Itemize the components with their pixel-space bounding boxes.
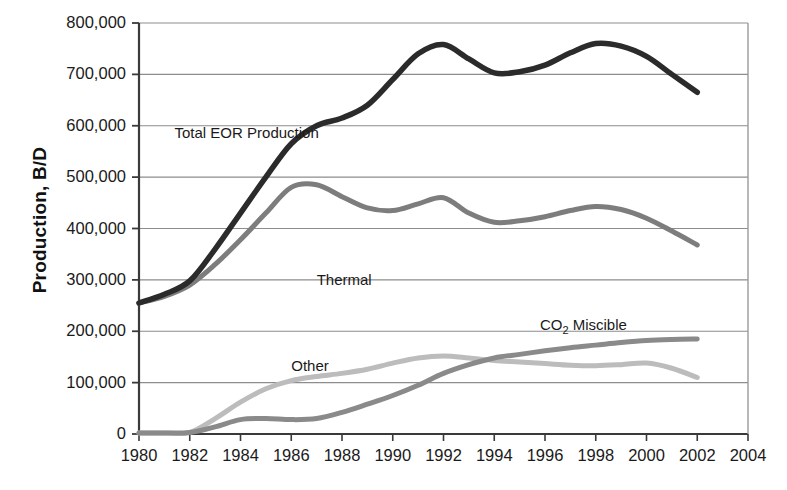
series-label-text: CO	[540, 316, 563, 333]
series-line-co2-miscible	[139, 339, 697, 433]
x-axis-ticks	[139, 434, 748, 441]
x-tick-label: 2000	[628, 446, 665, 465]
y-tick-label-text: 600,000	[66, 116, 126, 135]
x-tick-label: 1982	[171, 446, 208, 465]
series-label-text-2: Miscible	[569, 316, 627, 333]
y-tick-label-text: 500,000	[66, 167, 126, 186]
x-tick-label: 1980	[121, 446, 158, 465]
x-tick-label: 1992	[425, 446, 462, 465]
data-series	[139, 43, 697, 433]
chart-container: Production, B/D 0100,000200,000300,00040…	[0, 0, 787, 490]
y-tick-label-text: 800,000	[66, 13, 126, 32]
x-tick-label: 1990	[374, 446, 411, 465]
y-tick-label-text: 300,000	[66, 270, 126, 289]
x-tick-label: 1998	[577, 446, 614, 465]
x-tick-label: 1994	[476, 446, 513, 465]
series-line-total-eor-production	[139, 43, 697, 303]
y-tick-label-text: 100,000	[66, 373, 126, 392]
x-tick-label: 1986	[273, 446, 310, 465]
series-line-thermal	[139, 184, 697, 303]
x-tick-label: 1988	[324, 446, 361, 465]
series-label: Other	[291, 357, 329, 374]
gridlines	[139, 23, 748, 383]
y-tick-label-text: 0	[117, 424, 126, 443]
x-tick-label: 2002	[679, 446, 716, 465]
series-label: Thermal	[317, 271, 372, 288]
y-tick-label-text: 200,000	[66, 321, 126, 340]
x-tick-label: 2004	[730, 446, 767, 465]
series-label: Total EOR Production	[175, 124, 319, 141]
x-tick-label: 1984	[222, 446, 259, 465]
series-label: CO2 Miscible	[540, 316, 627, 336]
y-tick-label-text: 700,000	[66, 64, 126, 83]
y-tick-label-text: 400,000	[66, 219, 126, 238]
x-tick-label: 1996	[527, 446, 564, 465]
